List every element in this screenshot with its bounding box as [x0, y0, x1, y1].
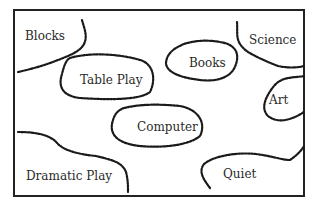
- area-label-blocks: Blocks: [25, 30, 65, 42]
- area-label-books: Books: [189, 57, 226, 69]
- area-label-quiet: Quiet: [223, 168, 256, 180]
- dramatic-play-boundary: [18, 132, 128, 192]
- area-label-art: Art: [269, 94, 288, 106]
- area-label-table-play: Table Play: [80, 74, 143, 86]
- blocks-boundary: [18, 20, 86, 72]
- area-label-science: Science: [249, 34, 296, 46]
- area-label-dramatic-play: Dramatic Play: [26, 170, 112, 182]
- area-label-computer: Computer: [137, 121, 198, 133]
